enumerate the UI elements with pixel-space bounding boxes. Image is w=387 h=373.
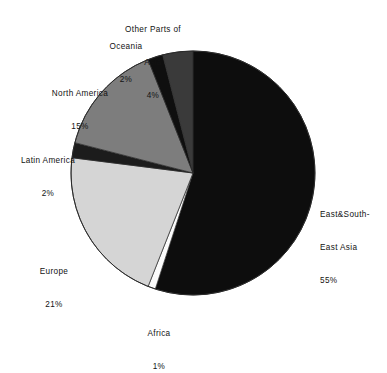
slice-label-latin-america: Latin America 2% <box>0 133 96 221</box>
slice-label-europe: Europe 21% <box>18 244 90 332</box>
slice-label-value: 21% <box>18 299 90 310</box>
slice-label-name: Latin America <box>0 155 96 166</box>
slice-label-east-and-south-east-asia: East&South- East Asia 55% <box>320 187 386 308</box>
slice-label-name-line2: East Asia <box>320 242 386 253</box>
slice-label-name-line1: East&South- <box>320 209 386 220</box>
slice-label-name: Oceania <box>92 41 160 52</box>
slice-label-value: 1% <box>128 361 190 372</box>
slice-label-value: 15% <box>30 121 130 132</box>
slice-label-africa: Africa 1% <box>128 306 190 373</box>
slice-label-value: 2% <box>0 188 96 199</box>
slice-label-name: Africa <box>128 328 190 339</box>
slice-label-value: 55% <box>320 275 386 286</box>
slice-label-name: North America <box>30 88 130 99</box>
slice-label-name: Europe <box>18 266 90 277</box>
